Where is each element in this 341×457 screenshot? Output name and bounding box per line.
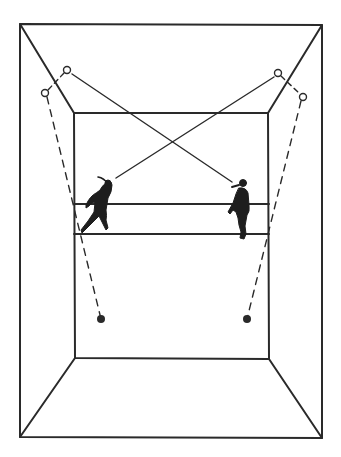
ball-dot-icon xyxy=(97,315,105,323)
court-diagram xyxy=(0,0,341,457)
open-circle-icon xyxy=(42,90,49,97)
circle-connector-right xyxy=(281,76,300,94)
shot-path-dashed-2 xyxy=(247,101,301,319)
open-circle-icon xyxy=(64,67,71,74)
outer-wall xyxy=(20,24,322,438)
open-circle-icon xyxy=(300,94,307,101)
right-player-icon xyxy=(228,180,249,240)
corner-line-tr xyxy=(268,25,322,113)
corner-line-br xyxy=(269,359,322,438)
shot-path-solid-2 xyxy=(116,77,274,178)
open-circle-icon xyxy=(275,70,282,77)
shot-path-solid-1 xyxy=(72,74,232,182)
corner-line-bl xyxy=(20,358,75,437)
ball-dot-icon xyxy=(243,315,251,323)
